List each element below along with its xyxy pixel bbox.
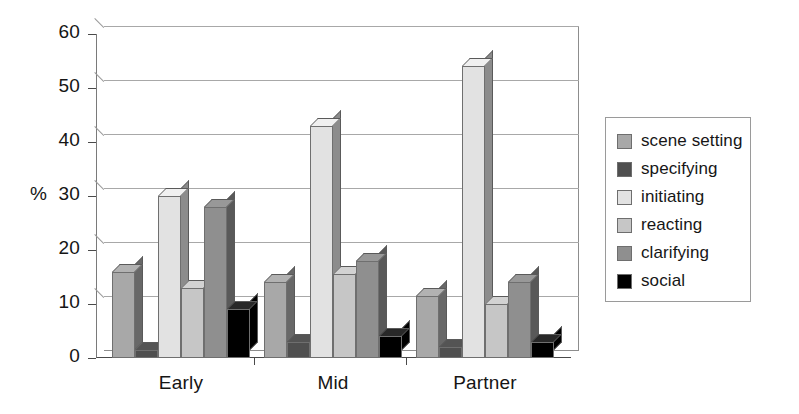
bar-front-face [181,288,204,358]
legend-item-label: clarifying [641,243,709,263]
bar-front-face [462,66,485,358]
bar-scene-setting-early [112,272,135,358]
legend-swatch-scene-setting-icon [617,134,632,149]
legend-item-clarifying[interactable]: clarifying [617,239,750,267]
bar-side-face [402,320,410,350]
bar-specifying-partner [439,347,462,358]
legend-swatch-social-icon [617,274,632,289]
legend-item-label: initiating [641,187,704,207]
legend-item-label: scene setting [641,131,742,151]
bar-front-face [264,282,287,358]
bar-front-face [416,296,439,358]
legend-swatch-initiating-icon [617,190,632,205]
bar-reacting-early [181,288,204,358]
bar-front-face [112,272,135,358]
chart-legend: scene settingspecifyinginitiatingreactin… [605,117,751,302]
bar-front-face [310,126,333,358]
legend-item-reacting[interactable]: reacting [617,211,750,239]
bar-social-early [227,309,250,358]
bar-front-face [158,196,181,358]
x-axis-tick [254,358,255,365]
bar-initiating-mid [310,126,333,358]
bar-specifying-early [135,350,158,358]
bar-scene-setting-partner [416,296,439,358]
legend-swatch-clarifying-icon [617,246,632,261]
bar-specifying-mid [287,342,310,358]
legend-item-label: specifying [641,159,718,179]
x-axis-label-mid: Mid [263,372,403,394]
bar-front-face [508,282,531,358]
bar-initiating-partner [462,66,485,358]
bar-social-partner [531,342,554,358]
legend-item-label: social [641,271,685,291]
bar-clarifying-early [204,207,227,358]
bar-initiating-early [158,196,181,358]
bar-front-face [485,304,508,358]
legend-swatch-reacting-icon [617,218,632,233]
bar-reacting-mid [333,274,356,358]
legend-item-initiating[interactable]: initiating [617,183,750,211]
bar-front-face [333,274,356,358]
bar-front-face [227,309,250,358]
bar-front-face [439,347,462,358]
legend-item-scene-setting[interactable]: scene setting [617,127,750,155]
legend-item-label: reacting [641,215,702,235]
bar-front-face [356,261,379,358]
x-axis-label-early: Early [111,372,251,394]
bar-chart: 0102030405060 % EarlyMidPartner scene se… [0,0,799,414]
bar-front-face [135,350,158,358]
bar-front-face [204,207,227,358]
bar-reacting-partner [485,304,508,358]
bar-front-face [531,342,554,358]
bar-clarifying-mid [356,261,379,358]
x-axis-tick [406,358,407,365]
bar-scene-setting-mid [264,282,287,358]
bar-clarifying-partner [508,282,531,358]
bar-front-face [379,336,402,358]
legend-item-specifying[interactable]: specifying [617,155,750,183]
bar-social-mid [379,336,402,358]
x-axis-label-partner: Partner [415,372,555,394]
legend-item-social[interactable]: social [617,267,750,295]
bar-front-face [287,342,310,358]
legend-swatch-specifying-icon [617,162,632,177]
